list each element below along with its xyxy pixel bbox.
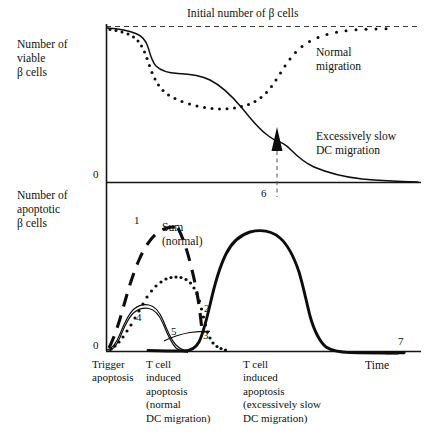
upper-y-axis-label: Number of viable β cells: [17, 38, 68, 80]
x-category-tcell-normal: T cell induced apoptosis (normal DC migr…: [146, 358, 210, 425]
annotation-normal-migration: Normal migration: [316, 46, 361, 74]
x-axis-label: Time: [365, 359, 389, 373]
curve-label-7: 7: [398, 335, 404, 348]
figure-root: Initial number of β cells Number of viab…: [0, 0, 425, 447]
curve-slow-dc-migration: [107, 28, 418, 182]
lower-y-zero-tick: 0: [93, 339, 99, 352]
curve-label-6: 6: [261, 187, 267, 200]
curve-label-4: 4: [136, 311, 142, 324]
curve-label-2: 2: [204, 302, 210, 315]
upper-y-zero-tick: 0: [93, 168, 99, 181]
x-category-trigger-apoptosis: Trigger apoptosis: [92, 358, 134, 385]
annotation-sum-normal: Sum (normal): [162, 221, 203, 249]
curve-label-3: 3: [203, 329, 209, 342]
curve-label-5: 5: [171, 325, 177, 338]
annotation-slow-dc-migration: Excessively slow DC migration: [316, 130, 396, 158]
initial-number-title: Initial number of β cells: [187, 7, 299, 21]
curve-label-1: 1: [134, 214, 140, 227]
lower-y-axis-label: Number of apoptotic β cells: [17, 189, 68, 231]
x-category-tcell-slow: T cell induced apoptosis (excessively sl…: [243, 358, 321, 425]
